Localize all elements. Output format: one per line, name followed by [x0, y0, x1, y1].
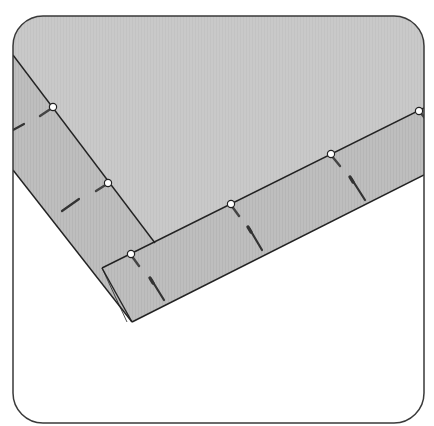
sewing-illustration	[0, 0, 434, 426]
